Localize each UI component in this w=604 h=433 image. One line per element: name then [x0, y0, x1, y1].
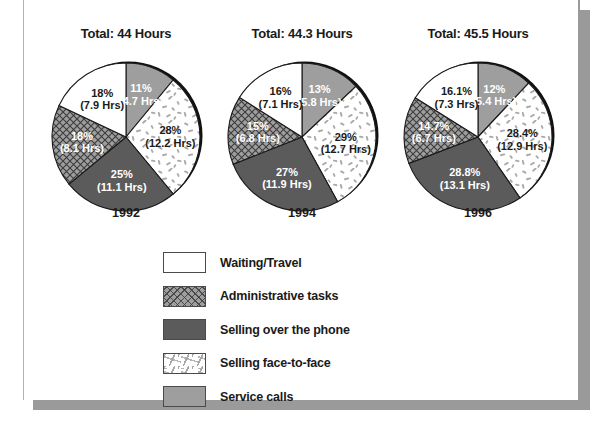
pie-year-label-1994: 1994 — [228, 206, 376, 220]
legend-label-selling-face-to-face: Selling face-to-face — [220, 356, 331, 370]
pie-total-label-1996: Total: 45.5 Hours — [404, 26, 552, 41]
legend-item-selling-over-the-phone: Selling over the phone — [163, 313, 350, 347]
legend-label-waiting-travel: Waiting/Travel — [220, 256, 301, 270]
legend-item-waiting-travel: Waiting/Travel — [163, 246, 350, 280]
pie-chart-1996: Total: 45.5 Hours 1996 — [404, 26, 552, 222]
legend-swatch-service-calls — [163, 386, 206, 407]
legend-swatch-selling-face-to-face — [163, 353, 206, 374]
legend-label-service-calls: Service calls — [220, 390, 293, 404]
pie-total-label-1992: Total: 44 Hours — [52, 26, 200, 41]
legend-item-selling-face-to-face: Selling face-to-face — [163, 347, 350, 381]
pie-chart-1994: Total: 44.3 Hours 1994 — [228, 26, 376, 222]
legend-item-service-calls: Service calls — [163, 380, 350, 414]
legend-swatch-administrative-tasks — [163, 286, 206, 307]
pie-chart-1992: Total: 44 Hours 1992 — [52, 26, 200, 222]
legend-label-selling-over-the-phone: Selling over the phone — [220, 323, 350, 337]
pie-total-label-1994: Total: 44.3 Hours — [228, 26, 376, 41]
legend-item-administrative-tasks: Administrative tasks — [163, 280, 350, 314]
chart-legend: Waiting/Travel Administrative tasks Sell… — [163, 246, 350, 414]
legend-swatch-waiting-travel — [163, 252, 206, 273]
pie-year-label-1992: 1992 — [52, 206, 200, 220]
pie-year-label-1996: 1996 — [404, 206, 552, 220]
legend-swatch-selling-over-the-phone — [163, 319, 206, 340]
legend-label-administrative-tasks: Administrative tasks — [220, 289, 338, 303]
